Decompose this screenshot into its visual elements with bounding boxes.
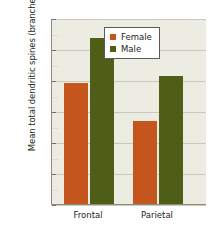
legend-swatch-female-icon [110,34,116,40]
legend-item-male[interactable]: Male [110,43,152,55]
y-axis-tick [52,19,56,20]
x-axis-tick-label: Parietal [141,210,173,220]
bar-parietal-female [133,121,157,204]
y-axis-tick [52,112,56,113]
gridline-minor [52,128,58,129]
legend: Female Male [104,27,160,59]
y-axis-tick [52,50,56,51]
x-axis-tick-label: Frontal [73,210,102,220]
gridline [52,205,206,206]
y-axis-tick [52,143,56,144]
gridline-minor [52,97,58,98]
gridline [52,19,206,20]
y-axis-tick [52,174,56,175]
bar-parietal-male [159,76,183,204]
y-axis-tick [52,81,56,82]
legend-label-male: Male [121,44,141,54]
legend-swatch-male-icon [110,46,116,52]
legend-item-female[interactable]: Female [110,31,152,43]
gridline-minor [52,159,58,160]
gridline-minor [52,35,58,36]
y-axis-tick [52,205,56,206]
bar-frontal-male [90,38,114,204]
legend-label-female: Female [121,32,152,42]
y-axis-label: Mean total dendritic spines (branches) [27,0,37,171]
bar-chart-figure: Mean total dendritic spines (branches) 0… [0,0,213,230]
gridline-minor [52,190,58,191]
gridline-minor [52,66,58,67]
bar-frontal-female [64,83,88,204]
